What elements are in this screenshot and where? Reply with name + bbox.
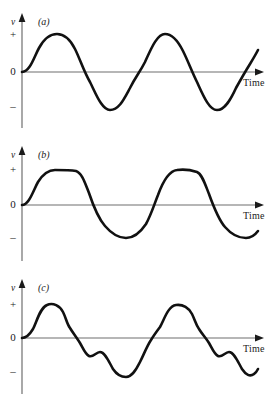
panel-c-vertical-axis-arrow — [19, 279, 26, 288]
panel-b-tick-negative: – — [6, 232, 20, 243]
panel-a-tag: (a) — [38, 16, 50, 27]
panel-b-horizontal-axis-arrow — [255, 201, 264, 208]
panel-a-time-label: Time — [243, 77, 265, 88]
panel-c-vertical-axis-label: v — [11, 283, 15, 293]
panel-a-horizontal-axis-arrow — [255, 68, 264, 75]
panel-b-tick-zero: 0 — [6, 199, 20, 210]
panel-a-tick-positive: + — [6, 29, 20, 40]
panel-c-tick-positive: + — [6, 299, 20, 310]
panel-a-vertical-axis-label: v — [11, 17, 15, 27]
panel-b-vertical-axis-arrow — [19, 146, 26, 155]
waveform-panel-c: v (c) + 0 – Time — [0, 266, 279, 399]
panel-b-vertical-axis-label: v — [11, 150, 15, 160]
panel-a-vertical-axis-arrow — [19, 13, 26, 22]
panel-c-horizontal-axis-arrow — [255, 334, 264, 341]
panel-c-waveform-curve — [22, 304, 258, 377]
panel-b-waveform-curve — [22, 170, 258, 238]
waveform-panel-a: v (a) + 0 – Time — [0, 0, 279, 133]
panel-a-tick-negative: – — [6, 101, 20, 112]
panel-b-time-label: Time — [243, 210, 265, 221]
panel-b-tick-positive: + — [6, 164, 20, 175]
panel-a-tick-zero: 0 — [6, 66, 20, 77]
waveform-panel-b: v (b) + 0 – Time — [0, 133, 279, 266]
panel-c-tag: (c) — [38, 282, 49, 293]
panel-b-tag: (b) — [38, 149, 50, 160]
panel-c-tick-negative: – — [6, 366, 20, 377]
panel-c-tick-zero: 0 — [6, 332, 20, 343]
panel-c-time-label: Time — [243, 343, 265, 354]
waveform-figure: v (a) + 0 – Time v (b) + 0 – Time v (c — [0, 0, 279, 400]
